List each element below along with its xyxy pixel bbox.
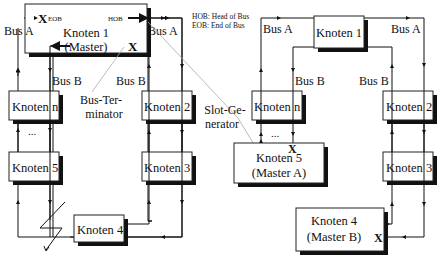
- bus-b-label-right: Bus B: [116, 74, 146, 88]
- bus-a-label-right: Bus A: [148, 24, 178, 38]
- x-mark-master-b: X: [374, 231, 383, 245]
- master-a-label: (Master A): [252, 166, 307, 180]
- x-mark-master-a: X: [288, 142, 297, 156]
- knoten-5-label-left: Knoten 5: [12, 161, 58, 175]
- bus-a-label-left: Bus A: [4, 24, 34, 38]
- bus-terminator-label-1: Bus-Ter-: [80, 93, 122, 107]
- bus-b-label-right-right-ring: Bus B: [359, 74, 389, 88]
- master-b-label: (Master B): [307, 230, 362, 244]
- hob-label: HOB: [108, 15, 123, 23]
- slot-generator-label-1: Slot-Ge-: [204, 103, 245, 117]
- bus-a-label-left-right-ring: Bus A: [263, 22, 293, 36]
- slot-generator-label-2: nerator: [205, 117, 239, 131]
- right-nodes: Knoten 1 Knoten n Knoten 2 ... Knoten 3 …: [234, 16, 437, 255]
- knoten-2-label-left: Knoten 2: [144, 100, 190, 114]
- bus-terminator-label-2: minator: [85, 107, 122, 121]
- x-mark-terminator: X: [128, 39, 138, 54]
- knoten-1-label: Knoten 1: [63, 26, 109, 40]
- knoten-1-label-right: Knoten 1: [316, 26, 362, 40]
- eob-label: EOB: [48, 15, 62, 23]
- bus-b-label-left: Bus B: [52, 74, 82, 88]
- bus-b-label-left-right-ring: Bus B: [295, 74, 325, 88]
- knoten-n-label-left: Knoten n: [12, 100, 59, 114]
- knoten-4-label-right: Knoten 4: [311, 214, 358, 228]
- x-mark-eob: X: [38, 11, 48, 26]
- bus-a-label-right-right-ring: Bus A: [391, 22, 421, 36]
- ellipsis-left: ...: [28, 125, 37, 137]
- knoten-3-label-right: Knoten 3: [386, 161, 432, 175]
- ellipsis-right: ...: [271, 127, 280, 139]
- master-label: (Master): [64, 40, 107, 54]
- knoten-3-label-left: Knoten 3: [144, 161, 190, 175]
- dual-bus-diagram: X EOB HOB Knoten 1 (Master) X: [0, 0, 445, 261]
- knoten-2-label-right: Knoten 2: [386, 100, 432, 114]
- knoten-4-label-left: Knoten 4: [77, 223, 124, 237]
